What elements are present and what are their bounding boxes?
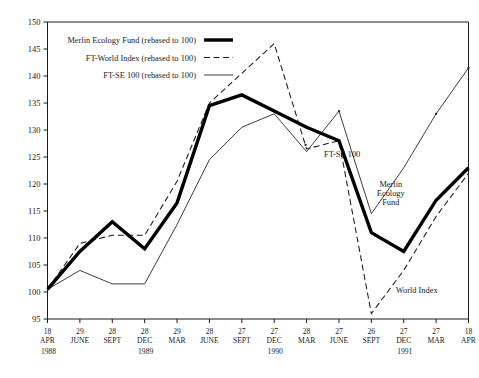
x-axis-day: 18 bbox=[44, 327, 52, 336]
x-axis-day: 26 bbox=[368, 327, 376, 336]
x-axis-day: 27 bbox=[238, 327, 246, 336]
plot-frame bbox=[48, 22, 469, 319]
chart-container: 1501451401351301251201151101051009518APR… bbox=[0, 0, 479, 378]
x-axis-month: SEPT bbox=[233, 336, 251, 345]
y-axis-label: 110 bbox=[28, 233, 40, 243]
x-axis-day: 18 bbox=[465, 327, 473, 336]
y-axis-label: 130 bbox=[28, 125, 41, 135]
x-axis-month: APR bbox=[40, 336, 56, 345]
data-point-marker bbox=[435, 113, 437, 115]
y-axis-label: 105 bbox=[28, 260, 41, 270]
x-axis-year: 1988 bbox=[41, 347, 56, 356]
y-axis-label: 100 bbox=[28, 287, 41, 297]
x-axis-day: 28 bbox=[108, 327, 116, 336]
legend-item-ft-world-index-label: FT-World Index (rebased to 100) bbox=[86, 54, 196, 63]
x-axis-month: DEC bbox=[396, 336, 411, 345]
y-axis-label: 140 bbox=[28, 71, 41, 81]
x-axis-day: 27 bbox=[400, 327, 408, 336]
x-axis-month: MAR bbox=[427, 336, 445, 345]
data-point-marker bbox=[304, 144, 306, 146]
x-axis-month: DEC bbox=[267, 336, 282, 345]
merlin-label: Merlin bbox=[379, 180, 403, 189]
merlin-label: Fund bbox=[382, 198, 400, 207]
x-axis-day: 29 bbox=[76, 327, 84, 336]
y-axis-label: 115 bbox=[28, 206, 40, 216]
x-axis-month: MAR bbox=[168, 336, 186, 345]
y-axis-label: 135 bbox=[28, 98, 41, 108]
data-point-marker bbox=[467, 67, 469, 69]
y-axis-label: 125 bbox=[28, 152, 41, 162]
x-axis-year: 1989 bbox=[138, 347, 153, 356]
x-axis-month: SEPT bbox=[103, 336, 121, 345]
x-axis-day: 28 bbox=[141, 327, 149, 336]
x-axis-month: MAR bbox=[298, 336, 316, 345]
data-point-marker bbox=[338, 110, 340, 112]
series-line-ft-world-index bbox=[48, 44, 469, 314]
x-axis-day: 29 bbox=[173, 327, 181, 336]
x-axis-month: DEC bbox=[137, 336, 152, 345]
x-axis-day: 27 bbox=[335, 327, 343, 336]
x-axis-day: 27 bbox=[432, 327, 440, 336]
x-axis-year: 1990 bbox=[268, 347, 283, 356]
legend-item-ft-se-100-label: FT-SE 100 (rebased to 100) bbox=[103, 71, 196, 80]
x-axis-month: JUNE bbox=[200, 336, 219, 345]
merlin-label: Ecology bbox=[377, 189, 406, 198]
x-axis-day: 28 bbox=[303, 327, 311, 336]
x-axis-year: 1991 bbox=[397, 347, 412, 356]
world-index-label: World Index bbox=[396, 286, 439, 295]
x-axis-month: SEPT bbox=[362, 336, 380, 345]
ftse-label: FT-SE 100 bbox=[324, 150, 360, 159]
x-axis-month: JUNE bbox=[71, 336, 90, 345]
y-axis-label: 150 bbox=[28, 17, 41, 27]
x-axis-month: JUNE bbox=[330, 336, 349, 345]
x-axis-day: 27 bbox=[270, 327, 278, 336]
y-axis-label: 145 bbox=[28, 44, 41, 54]
y-axis-label: 120 bbox=[28, 179, 41, 189]
y-axis-label: 95 bbox=[32, 314, 41, 324]
series-line-merlin-ecology-fund bbox=[48, 95, 469, 289]
x-axis-month: APR bbox=[461, 336, 477, 345]
legend-item-merlin-ecology-fund-label: Merlin Ecology Fund (rebased to 100) bbox=[67, 36, 196, 45]
line-chart: 1501451401351301251201151101051009518APR… bbox=[0, 0, 479, 378]
x-axis-day: 28 bbox=[206, 327, 214, 336]
